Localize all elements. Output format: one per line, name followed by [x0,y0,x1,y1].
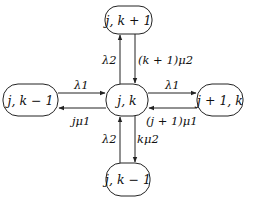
node-center-label: j, k [114,93,136,108]
label-center-to-right: λ1 [164,78,180,92]
node-top-label: j, k + 1 [103,13,152,28]
node-center: j, k [106,84,148,116]
state-transition-diagram: j, k + 1 j, k − 1 j, k j + 1, k j, k − 1… [0,0,253,202]
label-top-to-center: (k + 1)μ2 [138,53,193,67]
label-center-to-top: λ2 [101,53,117,67]
node-right-label: j + 1, k [194,93,243,108]
node-right: j + 1, k [194,84,243,116]
label-left-to-center: λ1 [73,78,89,92]
label-right-to-center: (j + 1)μ1 [146,114,198,128]
node-bottom: j, k − 1 [102,163,151,196]
node-top: j, k + 1 [103,6,152,34]
node-bottom-label: j, k − 1 [102,172,151,187]
node-left: j, k − 1 [3,84,58,116]
label-center-to-bottom: kμ2 [137,132,159,146]
label-center-to-left: jμ1 [69,114,90,128]
node-left-label: j, k − 1 [5,93,54,108]
label-bottom-to-center: λ2 [101,132,117,146]
